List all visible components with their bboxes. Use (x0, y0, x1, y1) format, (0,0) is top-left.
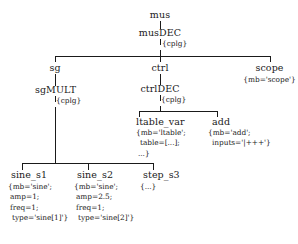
node-sine-s1-attr-line-1: {mb='sine'; (8, 182, 72, 193)
node-step-s3-label: step_s3 (140, 170, 202, 180)
node-sine-s1-attr-line-4: type='sine[1]'} (8, 213, 72, 224)
node-add-attr-line-1: {mb='add'; (208, 128, 268, 139)
node-ctrldec-label: ctrlDEC (133, 84, 187, 94)
node-sine-s2-attr-line-2: amp=2.5; (74, 192, 138, 203)
edge-ctrldec-bus (139, 111, 217, 112)
node-sine-s1: sine_s1 {mb='sine'; amp=1; freq=1; type=… (8, 170, 72, 224)
node-add-attr-line-2: inputs='|+++'} (208, 138, 268, 149)
node-ctrldec-attr: {cplg} (133, 95, 187, 106)
node-sgmult: sgMULT {cplg} (29, 85, 82, 106)
node-ltable-var: ltable_var {mb='ltable'; table=[...]; ..… (136, 117, 202, 159)
node-ctrldec: ctrlDEC {cplg} (133, 84, 187, 105)
node-sg-label: sg (41, 63, 69, 73)
node-ltable-var-attr-line-1: {mb='ltable'; (136, 128, 202, 139)
node-sine-s2-attr-line-3: freq=1; (74, 203, 138, 214)
node-mus: mus (144, 10, 176, 20)
node-ltable-var-attr-line-3: ...} (136, 149, 202, 160)
node-musdec: musDEC {cplg} (131, 28, 189, 49)
node-sine-s2: sine_s2 {mb='sine'; amp=2.5; freq=1; typ… (74, 170, 138, 224)
node-scope-label: scope (241, 63, 298, 73)
node-musdec-label: musDEC (131, 28, 189, 38)
node-ctrl-label: ctrl (146, 63, 174, 73)
node-ltable-var-attr-line-2: table=[...]; (136, 138, 202, 149)
node-mus-label: mus (144, 10, 176, 20)
node-sg: sg (41, 63, 69, 73)
node-ltable-var-label: ltable_var (136, 117, 202, 127)
node-step-s3-attr-line-1: {...} (140, 182, 202, 193)
node-sine-s2-attr-line-1: {mb='sine'; (74, 182, 138, 193)
edge-sgmult-trunk (55, 107, 56, 163)
node-musdec-attr: {cplg} (131, 39, 189, 50)
node-sine-s1-attr-line-3: freq=1; (8, 203, 72, 214)
hierarchy-tree-diagram: mus musDEC {cplg} sg ctrl scope {mb='sco… (0, 0, 298, 244)
node-add-label: add (208, 117, 268, 127)
node-scope-attr: {mb='scope'} (241, 75, 298, 86)
node-sgmult-attr: {cplg} (29, 96, 82, 107)
node-sine-s1-attr-line-2: amp=1; (8, 192, 72, 203)
edge-musdec-bus (55, 56, 270, 57)
node-sgmult-label: sgMULT (29, 85, 82, 95)
node-add: add {mb='add'; inputs='|+++'} (208, 117, 268, 149)
node-scope: scope {mb='scope'} (241, 63, 298, 85)
node-ctrl: ctrl (146, 63, 174, 73)
node-sine-s1-label: sine_s1 (8, 170, 72, 180)
node-step-s3: step_s3 {...} (140, 170, 202, 192)
node-sine-s2-attr-line-4: type='sine[2]'} (74, 213, 138, 224)
node-sine-s2-label: sine_s2 (74, 170, 138, 180)
